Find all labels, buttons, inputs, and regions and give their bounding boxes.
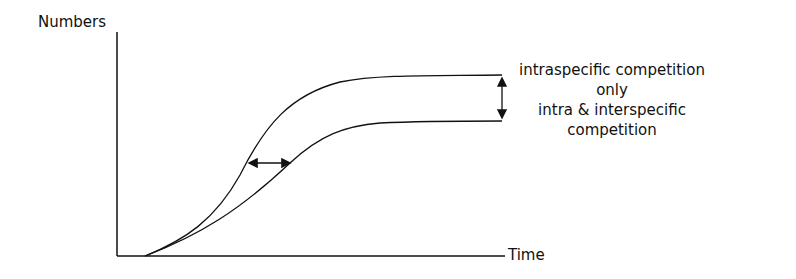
legend: intraspecific competition only intra & i…	[512, 60, 712, 140]
legend-upper-line1: intraspecific competition	[512, 60, 712, 80]
curve-intra-interspecific	[145, 121, 502, 256]
legend-lower-line1: intra & interspecific	[512, 100, 712, 120]
y-axis-label: Numbers	[38, 13, 106, 31]
x-axis-label: Time	[508, 246, 545, 264]
legend-upper-line2: only	[512, 80, 712, 100]
curve-intraspecific-only	[145, 75, 502, 256]
legend-lower-line2: competition	[512, 120, 712, 140]
